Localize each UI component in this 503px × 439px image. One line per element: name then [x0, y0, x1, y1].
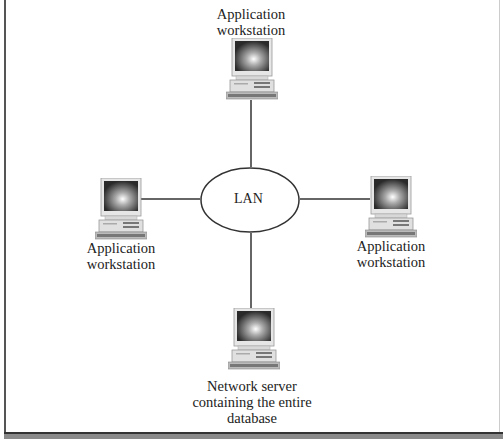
- desktop-computer-icon: [228, 308, 280, 370]
- node-right-label-line1: Application: [311, 238, 471, 254]
- desktop-computer-icon: [365, 176, 417, 238]
- desktop-computer-icon: [226, 38, 278, 100]
- bottom-bar: [4, 432, 503, 439]
- node-left-label: Application workstation: [41, 240, 201, 272]
- node-bottom-label-line2: containing the entire: [172, 394, 332, 410]
- node-left-label-line2: workstation: [41, 256, 201, 272]
- node-left-label-line1: Application: [41, 240, 201, 256]
- desktop-computer-icon: [95, 178, 147, 240]
- node-bottom-label-line3: database: [172, 410, 332, 426]
- node-top-label-line2: workstation: [171, 22, 331, 38]
- node-right-label: Application workstation: [311, 238, 471, 270]
- lan-label: LAN: [234, 191, 263, 207]
- node-bottom-label: Network server containing the entire dat…: [172, 378, 332, 426]
- node-top-label: Application workstation: [171, 6, 331, 38]
- node-top-label-line1: Application: [171, 6, 331, 22]
- node-right-label-line2: workstation: [311, 254, 471, 270]
- node-bottom-label-line1: Network server: [172, 378, 332, 394]
